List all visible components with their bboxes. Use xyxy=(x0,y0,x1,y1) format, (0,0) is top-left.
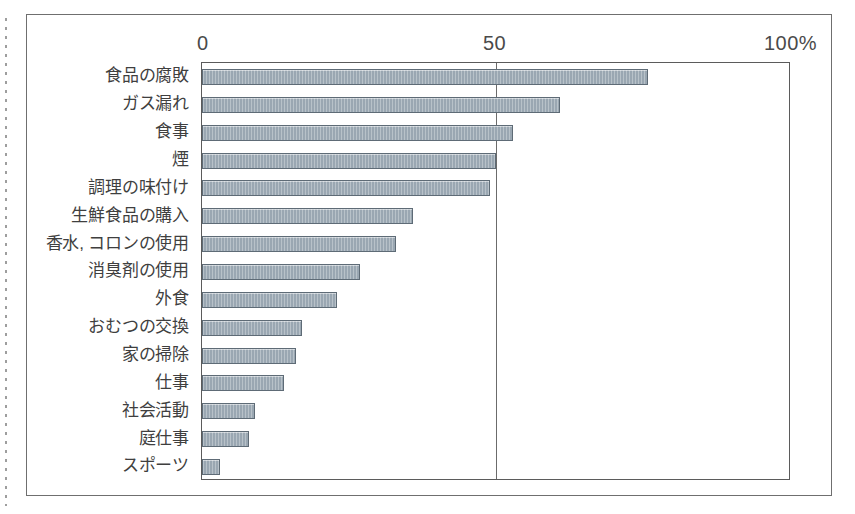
bar-row xyxy=(202,397,789,425)
category-label: ガス漏れ xyxy=(35,90,195,118)
bar xyxy=(202,153,496,169)
bar-row xyxy=(202,258,789,286)
bar xyxy=(202,375,284,391)
bar xyxy=(202,97,560,113)
bar xyxy=(202,292,337,308)
category-label: 生鮮食品の購入 xyxy=(35,201,195,229)
bar xyxy=(202,264,360,280)
category-label: 食事 xyxy=(35,118,195,146)
category-label: 外食 xyxy=(35,285,195,313)
category-label: スポーツ xyxy=(35,452,195,480)
bar xyxy=(202,348,296,364)
horizontal-bar-chart: 0 50 100% 食品の腐敗ガス漏れ食事煙調理の味付け生鮮食品の購入香水, コ… xyxy=(0,0,855,514)
category-label: 食品の腐敗 xyxy=(35,62,195,90)
bar-row xyxy=(202,91,789,119)
bar-row xyxy=(202,369,789,397)
bar xyxy=(202,431,249,447)
bar xyxy=(202,208,413,224)
plot-area xyxy=(201,62,790,480)
x-axis-tick-0: 0 xyxy=(197,32,209,55)
bar-row xyxy=(202,119,789,147)
category-label: 消臭剤の使用 xyxy=(35,257,195,285)
bar xyxy=(202,125,513,141)
bar-row xyxy=(202,314,789,342)
category-label: 香水, コロンの使用 xyxy=(35,229,195,257)
x-axis-tick-50: 50 xyxy=(483,32,506,55)
bar-row xyxy=(202,174,789,202)
category-label: 家の掃除 xyxy=(35,341,195,369)
bar-row xyxy=(202,342,789,370)
category-label: おむつの交換 xyxy=(35,313,195,341)
bar-row xyxy=(202,453,789,481)
bar xyxy=(202,459,220,475)
bar-rows xyxy=(202,63,789,479)
bar xyxy=(202,320,302,336)
category-axis-labels: 食品の腐敗ガス漏れ食事煙調理の味付け生鮮食品の購入香水, コロンの使用消臭剤の使… xyxy=(35,62,195,480)
bar-row xyxy=(202,286,789,314)
category-label: 社会活動 xyxy=(35,396,195,424)
bar xyxy=(202,69,648,85)
bar-row xyxy=(202,147,789,175)
category-label: 仕事 xyxy=(35,368,195,396)
bar-row xyxy=(202,425,789,453)
category-label: 調理の味付け xyxy=(35,173,195,201)
x-axis-tick-100: 100% xyxy=(764,32,817,55)
bar-row xyxy=(202,63,789,91)
bar xyxy=(202,403,255,419)
bar xyxy=(202,180,490,196)
bar-row xyxy=(202,230,789,258)
category-label: 庭仕事 xyxy=(35,424,195,452)
bar xyxy=(202,236,396,252)
bar-row xyxy=(202,202,789,230)
category-label: 煙 xyxy=(35,146,195,174)
